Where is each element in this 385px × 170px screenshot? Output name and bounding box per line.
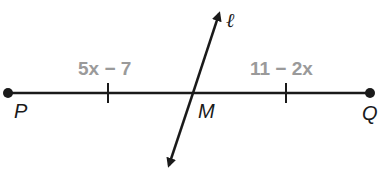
line-l-up-arrow <box>193 14 219 93</box>
point-p-label: P <box>14 100 27 123</box>
point-q-label: Q <box>362 102 378 125</box>
left-segment-expression: 5x − 7 <box>78 58 131 80</box>
right-segment-expression: 11 − 2x <box>250 58 313 80</box>
geometry-diagram <box>0 0 385 170</box>
line-l-label: ℓ <box>226 8 234 32</box>
point-p <box>3 88 13 98</box>
point-m-label: M <box>198 100 215 123</box>
point-q <box>365 88 375 98</box>
line-l-down-arrow <box>169 93 193 165</box>
